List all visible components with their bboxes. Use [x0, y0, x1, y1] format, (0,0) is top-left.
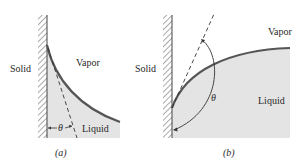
- contact-angle-diagram: Solid Vapor Liquid θ (a) Solid Vapor Liq…: [0, 0, 304, 165]
- solid-wall-hatch-a: [38, 15, 47, 138]
- theta-label-a: θ: [58, 122, 63, 133]
- solid-wall-hatch-b: [163, 15, 172, 138]
- theta-label-b: θ: [211, 92, 216, 103]
- liquid-region-b: [172, 48, 290, 138]
- solid-label-b: Solid: [135, 63, 156, 74]
- panel-b: Solid Vapor Liquid θ (b): [135, 14, 293, 159]
- liquid-label-a: Liquid: [82, 123, 109, 134]
- caption-a: (a): [55, 147, 67, 159]
- vapor-label-b: Vapor: [268, 26, 293, 37]
- panel-a: Solid Vapor Liquid θ (a): [10, 15, 120, 159]
- caption-b: (b): [223, 147, 235, 159]
- solid-label-a: Solid: [10, 63, 31, 74]
- liquid-label-b: Liquid: [258, 95, 285, 106]
- vapor-label-a: Vapor: [76, 57, 101, 68]
